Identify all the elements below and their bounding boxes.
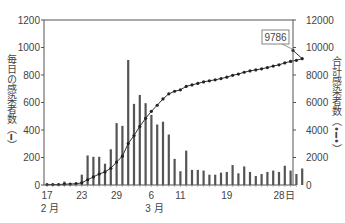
daily-bar xyxy=(249,172,251,185)
left-tick-label: 800 xyxy=(23,70,40,81)
cumulative-point xyxy=(295,59,298,62)
x-tick-label: 23 xyxy=(76,190,88,201)
cumulative-point xyxy=(156,104,159,107)
left-tick-label: 1200 xyxy=(18,15,41,26)
cumulative-point xyxy=(202,80,205,83)
right-tick-label: 12000 xyxy=(306,15,334,26)
daily-bar xyxy=(290,171,292,185)
daily-bar xyxy=(179,171,181,185)
cumulative-point xyxy=(92,175,95,178)
daily-bar xyxy=(301,169,303,186)
left-tick-label: 1000 xyxy=(18,42,41,53)
cumulative-point xyxy=(214,78,217,81)
daily-bar xyxy=(98,157,100,185)
cumulative-point xyxy=(283,61,286,64)
daily-bar xyxy=(174,159,176,185)
daily-bar xyxy=(278,172,280,185)
left-tick-label: 200 xyxy=(23,152,40,163)
left-axis-title: 毎日の感染者数（━） xyxy=(6,53,17,150)
x-tick-label: 19 xyxy=(221,190,233,201)
left-tick-label: 400 xyxy=(23,125,40,136)
cumulative-point xyxy=(237,72,240,75)
cumulative-point xyxy=(179,88,182,91)
daily-bar xyxy=(237,173,239,185)
cumulative-point xyxy=(121,155,124,158)
right-tick-label: 0 xyxy=(306,180,312,191)
cumulative-point xyxy=(289,60,292,63)
daily-bar xyxy=(243,166,245,185)
daily-bar xyxy=(295,174,297,185)
cumulative-point xyxy=(161,97,164,100)
daily-bar xyxy=(214,175,216,185)
daily-bar xyxy=(220,173,222,185)
cumulative-point xyxy=(208,79,211,82)
cumulative-point xyxy=(248,69,251,72)
x-axis-ticks: 1723296111928日2 月3 月 xyxy=(41,185,297,214)
x-tick-label: 6 xyxy=(149,190,155,201)
left-axis-ticks: 020040060080010001200 xyxy=(18,15,44,191)
daily-bar xyxy=(92,157,94,185)
daily-bar xyxy=(197,170,199,185)
cumulative-point xyxy=(132,134,135,137)
daily-bar xyxy=(104,164,106,185)
daily-bar xyxy=(191,170,193,185)
cumulative-point xyxy=(260,67,263,70)
right-axis-ticks: 020004000600080001000012000 xyxy=(293,15,334,191)
right-tick-label: 8000 xyxy=(306,70,329,81)
daily-bar xyxy=(284,166,286,185)
left-tick-label: 600 xyxy=(23,97,40,108)
cumulative-point xyxy=(196,82,199,85)
daily-bar xyxy=(168,135,170,185)
x-tick-label: 11 xyxy=(175,190,186,201)
cumulative-point xyxy=(254,68,257,71)
cumulative-point xyxy=(231,74,234,77)
chart: 020040060080010001200 020004000600080001… xyxy=(0,0,345,223)
left-tick-label: 0 xyxy=(34,180,40,191)
cumulative-point xyxy=(301,57,304,60)
cumulative-point xyxy=(225,76,228,79)
right-tick-label: 10000 xyxy=(306,42,334,53)
right-tick-label: 2000 xyxy=(306,152,329,163)
daily-bar xyxy=(150,115,152,185)
daily-bar xyxy=(261,174,263,185)
month-label: 2 月 xyxy=(41,203,59,214)
cumulative-point xyxy=(272,64,275,67)
daily-bar xyxy=(145,103,147,185)
right-tick-label: 6000 xyxy=(306,97,329,108)
cumulative-point xyxy=(167,92,170,95)
daily-bar xyxy=(139,95,141,185)
daily-bar xyxy=(226,172,228,185)
daily-bar xyxy=(156,125,158,186)
cumulative-point xyxy=(86,178,89,181)
cumulative-point xyxy=(80,181,83,184)
x-tick-label: 日 xyxy=(285,190,295,201)
x-tick-label: 28 xyxy=(273,190,285,201)
right-axis-title: 合計感染者数（•━•） xyxy=(331,55,342,154)
cumulative-point xyxy=(150,110,153,113)
svg-text:毎日の感染者数（━）: 毎日の感染者数（━） xyxy=(6,53,17,150)
cumulative-point xyxy=(190,83,193,86)
cumulative-point xyxy=(127,142,130,145)
cumulative-point xyxy=(266,66,269,69)
cumulative-point xyxy=(185,85,188,88)
daily-bar xyxy=(127,60,129,185)
x-tick-label: 17 xyxy=(41,190,53,201)
cumulative-point xyxy=(103,170,106,173)
cumulative-point xyxy=(277,63,280,66)
daily-bar xyxy=(116,123,118,185)
right-tick-label: 4000 xyxy=(306,125,329,136)
month-label: 3 月 xyxy=(145,203,163,214)
annotation-9786: 9786 xyxy=(262,30,293,49)
daily-bar xyxy=(185,151,187,185)
cumulative-point xyxy=(173,90,176,93)
cumulative-point xyxy=(138,125,141,128)
daily-bar xyxy=(208,175,210,185)
daily-bar xyxy=(133,104,135,185)
daily-bars xyxy=(46,60,303,185)
x-tick-label: 29 xyxy=(111,190,123,201)
cumulative-point xyxy=(243,71,246,74)
daily-bar xyxy=(272,171,274,185)
daily-bar xyxy=(266,172,268,185)
svg-text:合計感染者数（•━•）: 合計感染者数（•━•） xyxy=(331,55,342,154)
cumulative-point xyxy=(115,160,118,163)
